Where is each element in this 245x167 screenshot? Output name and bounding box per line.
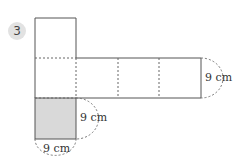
- dimension-label-shaded-bottom: 9 cm: [43, 142, 70, 155]
- shaded-face: [35, 98, 76, 139]
- dimension-label-shaded-side: 9 cm: [80, 111, 107, 124]
- fold-lines: [35, 58, 159, 98]
- dimension-label-right: 9 cm: [205, 71, 232, 84]
- top-face: [35, 18, 76, 58]
